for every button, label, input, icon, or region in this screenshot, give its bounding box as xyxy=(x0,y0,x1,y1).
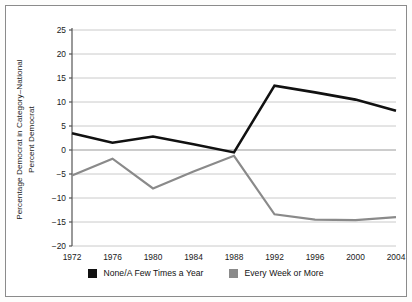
y-tick-label: 20 xyxy=(57,49,67,59)
y-tick-label: 25 xyxy=(57,25,67,35)
x-tick-label: 1984 xyxy=(184,252,203,262)
legend-item-every-week-or-more[interactable]: Every Week or More xyxy=(229,268,323,278)
y-tick-label: −15 xyxy=(52,217,67,227)
x-tick-label: 1996 xyxy=(306,252,325,262)
y-tick-label: 0 xyxy=(61,145,66,155)
x-tick-label: 1992 xyxy=(265,252,284,262)
y-tick-label: 15 xyxy=(57,73,67,83)
legend-item-none-a-few-times-a-year[interactable]: None/A Few Times a Year xyxy=(88,268,203,278)
x-tick-label: 1980 xyxy=(144,252,163,262)
y-tick-label: −20 xyxy=(52,241,67,251)
plot-area: 2520151050−5−10−15−201972197619801984198… xyxy=(0,0,412,302)
y-tick-label: −5 xyxy=(56,169,66,179)
x-tick-label: 2000 xyxy=(346,252,365,262)
x-tick-label: 1976 xyxy=(103,252,122,262)
x-tick-label: 1972 xyxy=(63,252,82,262)
legend-label: Every Week or More xyxy=(244,268,323,278)
legend-swatch-icon xyxy=(229,269,238,278)
series-line-none-a-few-times-a-year xyxy=(72,86,396,153)
y-tick-label: −10 xyxy=(52,193,67,203)
y-tick-label: 10 xyxy=(57,97,67,107)
chart-legend: None/A Few Times a Year Every Week or Mo… xyxy=(0,268,412,278)
legend-swatch-icon xyxy=(88,269,97,278)
series-line-every-week-or-more xyxy=(72,156,396,220)
chart-figure: Percentage Democrat in Category–National… xyxy=(0,0,412,302)
x-tick-label: 2004 xyxy=(387,252,406,262)
legend-label: None/A Few Times a Year xyxy=(103,268,203,278)
x-tick-label: 1988 xyxy=(225,252,244,262)
y-tick-label: 5 xyxy=(61,121,66,131)
line-chart-svg: 2520151050−5−10−15−201972197619801984198… xyxy=(0,0,412,302)
